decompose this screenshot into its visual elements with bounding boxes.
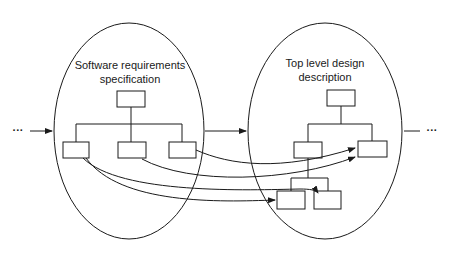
ellipsis-out: ··· [420,123,444,137]
left-child-box-2 [118,142,146,158]
left-stage-title-line2: specification [64,72,196,86]
right-stage-title: Top level design description [270,56,380,84]
left-stage-title-line1: Software requirements [64,58,196,72]
right-grandchild-box-2 [314,191,341,209]
right-child-box-2 [358,141,387,157]
traceability-diagram [0,0,449,258]
right-stage-title-line2: description [270,70,380,84]
right-root-box [327,90,355,106]
right-child-box-1 [294,142,322,158]
left-root-box [117,91,145,107]
trace-arrow-3-to-r2 [196,148,355,164]
ellipsis-in: ··· [6,123,30,137]
right-grandchild-box-1 [277,191,305,209]
left-child-box-3 [169,142,196,158]
left-stage-title: Software requirements specification [64,58,196,86]
right-stage-title-line1: Top level design [270,56,380,70]
trace-arrow-2-to-r2 [142,157,355,177]
left-child-box-1 [63,142,89,158]
trace-arrow-1-to-gc1 [86,158,275,201]
